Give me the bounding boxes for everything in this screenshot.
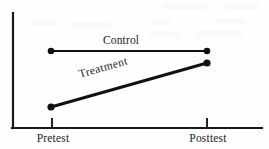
- control-series-label: Control: [103, 35, 139, 47]
- control-point-posttest: [204, 48, 211, 55]
- control-point-pretest: [48, 48, 55, 55]
- x-axis-label-pretest: Pretest: [37, 133, 70, 145]
- pretest-posttest-line-chart: Control Treatment Pretest Posttest: [0, 0, 269, 149]
- x-axis-label-posttest: Posttest: [189, 133, 226, 145]
- plot-area: [0, 0, 269, 149]
- treatment-point-pretest: [47, 103, 54, 110]
- treatment-series-line: [51, 63, 207, 107]
- treatment-point-posttest: [203, 59, 210, 66]
